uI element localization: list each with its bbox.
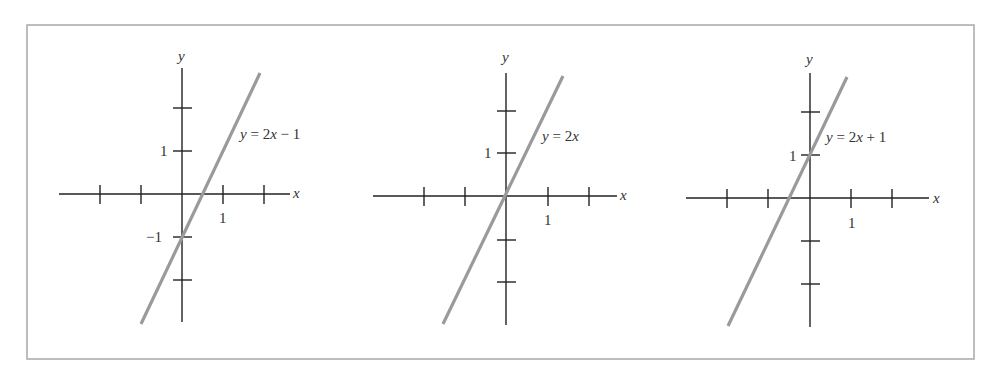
figure: y x 1 −1 1 y = 2x − 1 y x 1 1 y = 2x: [0, 0, 997, 376]
x-tick-label-1: 1: [544, 212, 552, 228]
y-tick-label-1: 1: [160, 143, 168, 159]
figure-frame: [27, 25, 974, 359]
y-tick-label-1: 1: [484, 145, 492, 161]
graph-line: [728, 77, 847, 326]
equation-label: y = 2x − 1: [238, 126, 300, 142]
graph-line: [443, 76, 563, 324]
x-tick-label-1: 1: [848, 215, 856, 231]
equation-label: y = 2x + 1: [824, 129, 886, 145]
x-axis-label: x: [932, 190, 940, 206]
graph-line: [141, 73, 260, 324]
graph-y-equals-2x-minus-1: y x 1 −1 1 y = 2x − 1: [59, 48, 300, 324]
y-axis-label: y: [176, 48, 185, 64]
graph-y-equals-2x-plus-1: y x 1 1 y = 2x + 1: [686, 51, 940, 327]
y-tick-label-1: 1: [789, 148, 797, 164]
equation-label: y = 2x: [540, 128, 579, 144]
x-axis-label: x: [619, 187, 627, 203]
y-axis-label: y: [500, 49, 509, 65]
x-axis-label: x: [292, 185, 300, 201]
graph-y-equals-2x: y x 1 1 y = 2x: [373, 49, 627, 325]
y-axis-label: y: [804, 51, 813, 67]
x-tick-label-1: 1: [219, 210, 227, 226]
y-tick-label-neg1: −1: [146, 229, 162, 245]
